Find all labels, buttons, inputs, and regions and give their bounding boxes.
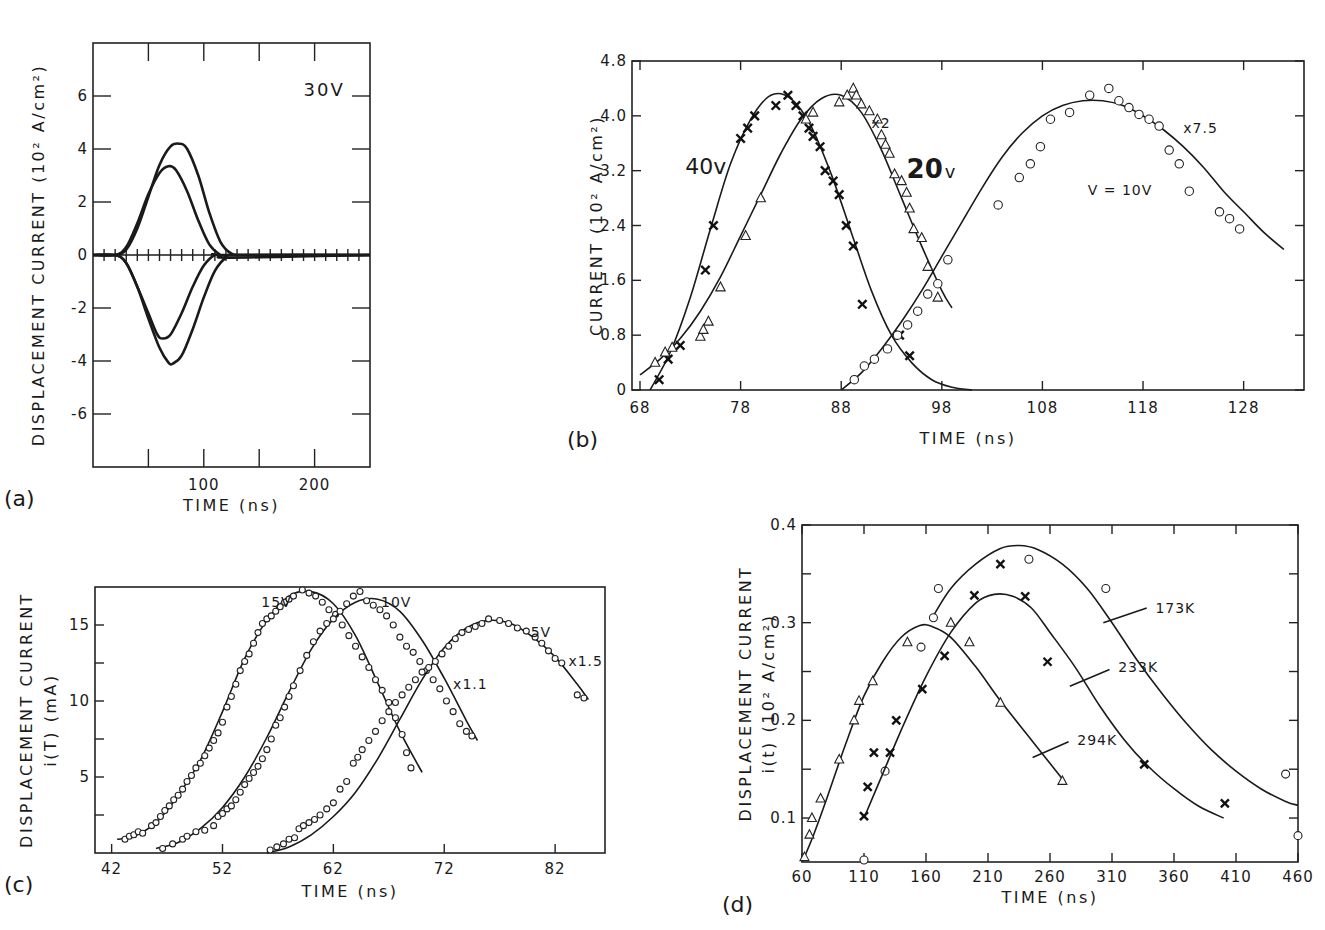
data-point-circle [406,684,412,690]
data-point-circle [310,639,316,645]
data-point-circle [317,812,323,818]
data-point-circle [304,652,310,658]
data-point-circle [994,201,1002,209]
curve-annotation: 294K [1077,732,1117,748]
data-point-circle [574,692,580,698]
series-5v [267,616,589,853]
data-point-circle [1115,97,1123,105]
data-point-circle [469,733,475,739]
y-axis-title: DISPLACEMENT CURRENT [736,566,755,822]
data-point-circle [211,738,217,744]
data-point-circle [330,616,336,622]
data-point-circle [1135,110,1143,118]
fit-curve [156,599,478,849]
data-point-circle [1036,142,1044,150]
data-point-circle [486,616,492,622]
data-point-circle [497,617,503,623]
series-positive-pulse-small- [93,166,370,258]
data-point-circle [506,620,512,626]
data-point-circle [306,820,312,826]
data-point-circle [870,355,878,363]
data-point-circle [157,814,163,820]
fit-curve [93,143,370,255]
x-tick-label: 108 [1027,399,1059,417]
y-tick-label: 4.8 [600,52,627,70]
y-axis-title: DISPLACEMENT CURRENT (10² A/cm²) [29,64,48,446]
series-negative-pulse-small- [93,254,370,338]
data-point-circle [233,797,239,803]
data-point-cross [1044,658,1052,666]
data-point-circle [251,640,257,646]
data-point-circle [224,704,230,710]
data-point-circle [359,654,365,660]
data-point-cross [736,134,744,142]
data-point-circle [944,256,952,264]
data-point-circle [180,786,186,792]
data-point-circle [419,669,425,675]
curve-annotation: x7.5 [1183,120,1218,136]
data-point-circle [450,709,456,715]
data-point-circle [443,698,449,704]
data-point-triangle [965,637,974,646]
data-point-circle [337,786,343,792]
data-point-circle [202,827,208,833]
data-point-circle [514,625,520,631]
data-point-circle [267,847,273,853]
curve-annotation: 40v [685,154,726,179]
fit-curve [805,625,1063,858]
data-point-circle [215,730,221,736]
data-point-triangle [1058,776,1067,785]
data-point-circle [392,700,398,706]
data-point-circle [1086,91,1094,99]
data-point-circle [346,633,352,639]
data-point-triangle [909,224,918,233]
data-point-cross [816,142,824,150]
series-negative-pulse-large- [93,254,370,364]
x-tick-label: 98 [931,399,952,417]
data-point-circle [917,643,925,651]
series-20v [640,83,952,375]
data-point-circle [1125,103,1133,111]
data-point-circle [350,593,356,599]
data-point-circle [1175,160,1183,168]
data-point-circle [140,830,146,836]
x-tick-label: 100 [188,476,220,494]
data-point-triangle [816,794,825,803]
data-point-circle [373,677,379,683]
data-point-circle [1046,115,1054,123]
data-point-circle [170,841,176,847]
data-point-circle [312,817,318,823]
data-point-circle [1235,225,1243,233]
x-tick-label: 210 [972,868,1004,886]
data-point-circle [233,681,239,687]
x-axis: 60110160210260310360410460TIME (ns) [791,525,1313,907]
data-point-circle [337,608,343,614]
panel-b-chart: 68788898108118128TIME (ns)00.81.62.43.24… [587,52,1304,448]
data-point-circle [1185,187,1193,195]
data-point-circle [153,820,159,826]
data-point-circle [430,677,436,683]
curve-annotation: x2 [871,115,890,131]
data-point-circle [277,715,283,721]
data-point-circle [379,718,385,724]
panel-a-chart: 100200TIME (ns)-6-4-20246DISPLACEMENT CU… [29,43,370,515]
data-point-triangle [704,316,713,325]
data-point-circle [228,803,234,809]
fit-curve [932,545,1298,805]
data-point-circle [552,655,558,661]
data-point-circle [860,362,868,370]
data-point-circle [408,765,414,771]
data-point-cross [860,812,868,820]
data-point-circle [384,613,390,619]
y-axis: 0.10.20.30.4DISPLACEMENT CURRENTi(t) (10… [736,516,1298,827]
curve-annotation: x1.1 [453,676,488,692]
x-tick-label: 460 [1282,868,1314,886]
y-tick-label: 0 [616,381,627,399]
curve-annotation: 20 [907,154,943,184]
data-point-cross [970,591,978,599]
data-point-circle [446,643,452,649]
data-point-circle [432,658,438,664]
data-point-circle [472,624,478,630]
data-point-triangle [650,357,659,366]
data-point-triangle [933,292,942,301]
